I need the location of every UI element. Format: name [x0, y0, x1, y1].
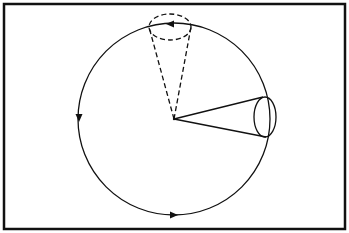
solid-cone	[174, 97, 276, 137]
center-point	[173, 118, 175, 120]
arrow-down-icon	[76, 114, 83, 122]
arrow-left-icon	[166, 21, 174, 28]
orbit-diagram	[0, 0, 349, 233]
diagram-canvas	[0, 0, 349, 233]
arrow-right-icon	[170, 212, 178, 219]
dashed-cone	[149, 14, 191, 119]
